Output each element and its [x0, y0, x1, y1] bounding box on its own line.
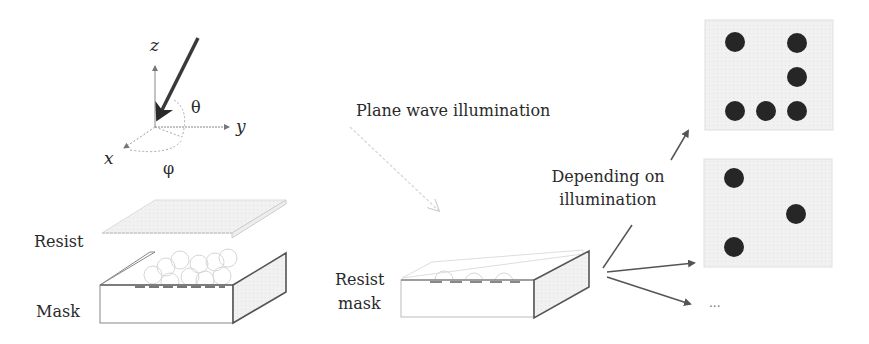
mask-block [100, 249, 286, 323]
outcome-arrows [603, 131, 694, 304]
depending-label-line1: Depending on [538, 167, 678, 186]
x-axis-label: x [104, 148, 114, 168]
resist-mask-label-line2: mask [338, 294, 381, 313]
mask-label: Mask [36, 302, 80, 321]
pattern-panel-1 [705, 20, 833, 130]
coordinate-axes [124, 38, 229, 152]
pattern-panel-2 [704, 159, 832, 267]
resist-mask-label-line1: Resist [335, 270, 384, 289]
z-axis-label: z [150, 35, 159, 55]
plane-wave-illumination-label: Plane wave illumination [356, 101, 550, 120]
diagram-canvas: z y x θ φ Resist Mask Plane wave illumin… [0, 0, 869, 344]
depending-label-line2: illumination [538, 190, 678, 209]
phi-label: φ [163, 159, 174, 178]
plane-wave-arrow [350, 127, 438, 210]
y-axis-label: y [236, 116, 246, 136]
resist-label: Resist [34, 232, 83, 251]
resist-mask-block [401, 250, 589, 318]
resist-layer [102, 200, 286, 238]
diagram-graphics [0, 0, 869, 344]
theta-label: θ [191, 98, 201, 117]
more-patterns-ellipsis: ... [709, 296, 720, 310]
